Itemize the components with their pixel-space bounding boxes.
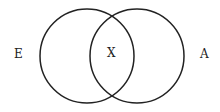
intersection-label: X bbox=[107, 46, 116, 60]
set-a-circle bbox=[90, 9, 184, 103]
set-a-label: A bbox=[199, 47, 209, 61]
venn-diagram: E X A bbox=[0, 0, 220, 112]
set-e-circle bbox=[40, 9, 134, 103]
set-e-label: E bbox=[14, 47, 23, 61]
